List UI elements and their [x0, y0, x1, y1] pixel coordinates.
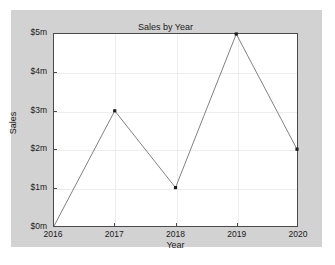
y-tick-mark — [53, 149, 57, 150]
y-tick-label: $2m — [15, 144, 47, 153]
y-axis-label: Sales — [8, 101, 18, 145]
series-line-sales — [54, 34, 297, 226]
plot-area — [53, 33, 298, 227]
data-point-marker — [295, 148, 298, 151]
x-tick-label: 2017 — [92, 229, 136, 239]
data-point-marker — [235, 32, 238, 35]
x-tick-mark — [176, 223, 177, 227]
x-tick-label: 2020 — [276, 229, 320, 239]
y-tick-label: $4m — [15, 67, 47, 76]
y-tick-mark — [53, 188, 57, 189]
y-tick-mark — [53, 111, 57, 112]
y-tick-label: $5m — [15, 28, 47, 37]
x-tick-label: 2019 — [215, 229, 259, 239]
x-tick-label: 2016 — [31, 229, 75, 239]
y-tick-mark — [53, 72, 57, 73]
x-axis-label: Year — [53, 240, 298, 250]
x-tick-label: 2018 — [154, 229, 198, 239]
x-tick-mark — [237, 223, 238, 227]
chart-title: Sales by Year — [42, 22, 289, 32]
chart-screenshot: Sales by Year $0m$1m$2m$3m$4m$5m Sales 2… — [0, 0, 335, 265]
x-tick-mark — [114, 223, 115, 227]
y-tick-label: $3m — [15, 106, 47, 115]
series-line — [54, 34, 297, 226]
data-point-marker — [174, 186, 177, 189]
y-tick-label: $1m — [15, 183, 47, 192]
data-point-marker — [113, 109, 116, 112]
